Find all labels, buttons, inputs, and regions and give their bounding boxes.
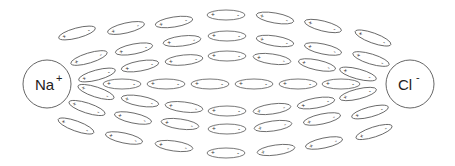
water-dipole: +- xyxy=(120,93,159,109)
negative-pole-sign: - xyxy=(238,32,240,39)
water-dipole: +- xyxy=(252,51,291,66)
water-dipole: +- xyxy=(207,10,245,20)
water-dipole: +- xyxy=(351,49,390,70)
water-dipole: +- xyxy=(57,23,96,42)
negative-pole-sign: - xyxy=(265,80,267,87)
water-dipole: +- xyxy=(354,121,393,142)
chloride-ion-charge: - xyxy=(416,71,420,83)
water-dipole: +- xyxy=(255,10,294,26)
positive-pole-sign: + xyxy=(151,80,155,87)
water-dipole: +- xyxy=(106,19,145,37)
positive-pole-sign: + xyxy=(211,11,215,18)
water-dipole: +- xyxy=(304,134,343,152)
positive-pole-sign: + xyxy=(212,52,216,59)
sodium-ion-label: Na xyxy=(35,76,55,93)
positive-pole-sign: + xyxy=(283,80,287,87)
sodium-ion: Na + xyxy=(23,60,71,108)
negative-pole-sign: - xyxy=(133,80,135,87)
water-dipole: +- xyxy=(255,33,294,49)
water-dipole: +- xyxy=(113,109,152,127)
water-dipole: +- xyxy=(103,79,141,89)
negative-pole-sign: - xyxy=(177,80,179,87)
sodium-ion-charge: + xyxy=(56,72,62,84)
water-dipole: +- xyxy=(67,97,106,118)
positive-pole-sign: + xyxy=(212,125,216,132)
water-dipole: +- xyxy=(256,142,295,157)
water-dipole: +- xyxy=(154,14,193,30)
ion-dipole-diagram: +-+-+-+-+-+-+-+-+-+-+-+-+-+-+-+-+-+-+-+-… xyxy=(0,0,455,166)
water-dipole: +- xyxy=(296,95,335,111)
water-dipoles-group: +-+-+-+-+-+-+-+-+-+-+-+-+-+-+-+-+-+-+-+-… xyxy=(56,10,393,158)
water-dipole: +- xyxy=(208,31,246,41)
water-dipole: +- xyxy=(235,79,273,89)
water-dipole: +- xyxy=(297,56,336,74)
positive-pole-sign: + xyxy=(212,107,216,114)
water-dipole: +- xyxy=(208,51,246,61)
water-dipole: +- xyxy=(114,40,153,57)
water-dipole: +- xyxy=(303,17,342,36)
water-dipole: +- xyxy=(163,34,202,49)
water-dipole: +- xyxy=(154,138,193,153)
water-dipole: +- xyxy=(160,116,199,131)
negative-pole-sign: - xyxy=(237,149,239,156)
water-dipole: +- xyxy=(165,53,204,67)
negative-pole-sign: - xyxy=(238,52,240,59)
negative-pole-sign: - xyxy=(221,80,223,87)
water-dipole: +- xyxy=(147,79,185,89)
water-dipole: +- xyxy=(104,129,143,147)
water-dipole: +- xyxy=(208,124,246,134)
water-dipole: +- xyxy=(353,27,392,49)
chloride-ion: Cl - xyxy=(386,60,434,108)
water-dipole: +- xyxy=(120,58,159,74)
positive-pole-sign: + xyxy=(239,80,243,87)
negative-pole-sign: - xyxy=(309,80,311,87)
positive-pole-sign: + xyxy=(326,80,330,87)
water-dipole: +- xyxy=(207,148,245,158)
water-dipole: +- xyxy=(322,79,360,89)
water-dipole: +- xyxy=(302,110,341,128)
positive-pole-sign: + xyxy=(195,80,199,87)
water-dipole: +- xyxy=(191,79,229,89)
positive-pole-sign: + xyxy=(212,32,216,39)
water-dipole: +- xyxy=(252,101,291,116)
water-dipole: +- xyxy=(350,102,389,121)
negative-pole-sign: - xyxy=(237,11,239,18)
water-dipole: +- xyxy=(253,118,292,133)
water-dipole: +- xyxy=(165,100,204,115)
positive-pole-sign: + xyxy=(211,149,215,156)
positive-pole-sign: + xyxy=(107,80,111,87)
water-dipole: +- xyxy=(56,115,95,137)
water-dipole: +- xyxy=(69,48,108,69)
negative-pole-sign: - xyxy=(352,80,354,87)
negative-pole-sign: - xyxy=(238,125,240,132)
water-dipole: +- xyxy=(279,79,317,89)
negative-pole-sign: - xyxy=(238,107,240,114)
water-dipole: +- xyxy=(208,106,246,116)
chloride-ion-label: Cl xyxy=(398,76,412,93)
water-dipole: +- xyxy=(303,40,342,58)
